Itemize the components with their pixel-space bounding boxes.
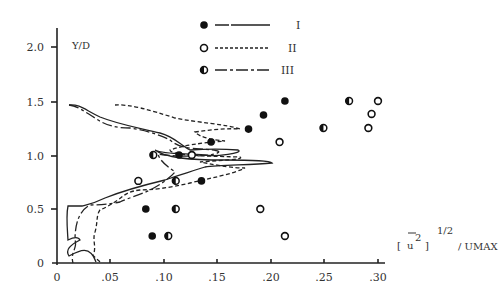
svg-text:.20: .20: [262, 271, 280, 284]
marker-filled: [245, 125, 253, 133]
marker-open: [257, 206, 264, 213]
marker-open: [282, 233, 289, 240]
marker-open: [188, 152, 195, 159]
legend-marker-open: [201, 45, 208, 52]
svg-text:]: ]: [425, 240, 429, 251]
y-tick-labels: 0 0.5 1.0 1.5 2.0: [27, 41, 45, 270]
svg-text:[: [: [397, 240, 401, 251]
marker-filled: [198, 177, 206, 185]
svg-text:I: I: [296, 19, 300, 32]
marker-open: [135, 178, 142, 185]
svg-text:.15: .15: [208, 271, 226, 284]
marker-filled: [281, 97, 289, 105]
y-axis-title: Y/D: [71, 40, 90, 51]
svg-text:.25: .25: [315, 271, 333, 284]
svg-text:0.5: 0.5: [27, 203, 45, 216]
marker-filled: [175, 151, 183, 159]
svg-text:.05: .05: [101, 271, 119, 284]
svg-text:0: 0: [54, 271, 61, 284]
marker-filled: [142, 205, 150, 213]
data-markers: [135, 97, 381, 240]
marker-open: [375, 98, 382, 105]
x-axis-title: [ u 2 ] 1/2 / UMAX: [397, 225, 498, 252]
svg-text:.10: .10: [155, 271, 173, 284]
svg-text:1/2: 1/2: [437, 225, 453, 236]
marker-filled: [260, 111, 268, 119]
svg-text:0: 0: [37, 257, 44, 270]
svg-text:.30: .30: [369, 271, 387, 284]
marker-filled: [207, 138, 215, 146]
legend: I II III: [200, 19, 300, 77]
svg-text:2.0: 2.0: [27, 41, 45, 54]
svg-text:/ UMAX: / UMAX: [458, 241, 498, 252]
x-tick-labels: 0 .05 .10 .15 .20 .25 .30: [54, 271, 387, 284]
marker-filled: [148, 232, 156, 240]
svg-text:III: III: [281, 64, 294, 77]
marker-open: [276, 139, 283, 146]
legend-marker-filled: [200, 21, 208, 29]
chart: 0 0.5 1.0 1.5 2.0 0 .05 .10 .15 .20 .25 …: [0, 0, 503, 299]
svg-text:1.0: 1.0: [27, 150, 45, 163]
svg-text:u: u: [407, 240, 414, 251]
svg-text:2: 2: [415, 232, 421, 243]
axes: [51, 28, 385, 265]
marker-open: [368, 111, 375, 118]
svg-text:1.5: 1.5: [27, 96, 45, 109]
svg-text:II: II: [288, 42, 297, 55]
marker-open: [365, 125, 372, 132]
